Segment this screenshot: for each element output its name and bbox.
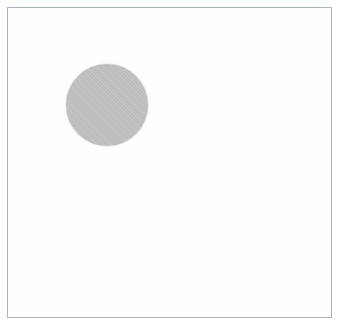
figure-canvas xyxy=(8,8,331,317)
figure-root xyxy=(0,0,342,333)
shape-circle xyxy=(66,64,148,146)
figure-frame xyxy=(7,7,332,318)
